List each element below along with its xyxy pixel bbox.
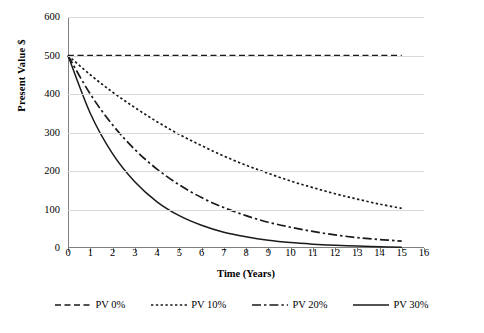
y-tick-label: 600 <box>26 12 60 23</box>
x-tick-label: 5 <box>167 248 191 259</box>
y-tick-label: 500 <box>26 50 60 61</box>
x-tick-label: 10 <box>279 248 303 259</box>
series-line-pv-30 <box>68 56 402 248</box>
legend-item-pv-30[interactable]: PV 30% <box>353 300 428 311</box>
gridline <box>68 171 424 172</box>
legend-label-pv-30: PV 30% <box>393 300 428 311</box>
plot-area <box>68 17 424 248</box>
y-axis-title: Present Value $ <box>16 11 27 141</box>
legend-label-pv-10: PV 10% <box>191 300 226 311</box>
series-line-pv-20 <box>68 56 402 242</box>
legend-swatch-pv-0 <box>55 301 91 309</box>
x-tick-label: 4 <box>145 248 169 259</box>
x-tick-label: 2 <box>101 248 125 259</box>
y-tick-label: 400 <box>26 89 60 100</box>
x-tick-label: 6 <box>190 248 214 259</box>
legend-item-pv-0[interactable]: PV 0% <box>55 300 125 311</box>
y-tick-label: 300 <box>26 127 60 138</box>
x-tick-label: 11 <box>301 248 325 259</box>
x-tick-label: 3 <box>123 248 147 259</box>
y-tick-label: 200 <box>26 166 60 177</box>
legend-item-pv-10[interactable]: PV 10% <box>151 300 226 311</box>
legend-swatch-pv-10 <box>151 301 187 309</box>
legend-label-pv-20: PV 20% <box>292 300 327 311</box>
x-tick-label: 13 <box>345 248 369 259</box>
gridline <box>68 94 424 95</box>
chart-legend: PV 0%PV 10%PV 20%PV 30% <box>0 300 484 311</box>
x-tick-label: 8 <box>234 248 258 259</box>
y-axis-tick-labels: 0100200300400500600 <box>26 0 60 333</box>
line-chart: Present Value $ 0100200300400500600 0123… <box>0 0 484 333</box>
x-tick-label: 15 <box>390 248 414 259</box>
gridline <box>68 133 424 134</box>
y-tick-label: 100 <box>26 204 60 215</box>
x-axis-title: Time (Years) <box>68 268 424 279</box>
x-tick-label: 1 <box>78 248 102 259</box>
x-tick-label: 14 <box>368 248 392 259</box>
x-tick-label: 9 <box>256 248 280 259</box>
gridline <box>68 56 424 57</box>
x-tick-label: 0 <box>56 248 80 259</box>
legend-swatch-pv-30 <box>353 301 389 309</box>
x-tick-label: 12 <box>323 248 347 259</box>
x-tick-label: 7 <box>212 248 236 259</box>
gridline <box>68 17 424 18</box>
x-axis-tick-labels: 012345678910111213141516 <box>0 248 484 264</box>
legend-swatch-pv-20 <box>252 301 288 309</box>
gridline <box>68 210 424 211</box>
legend-item-pv-20[interactable]: PV 20% <box>252 300 327 311</box>
x-tick-label: 16 <box>412 248 436 259</box>
legend-label-pv-0: PV 0% <box>95 300 125 311</box>
